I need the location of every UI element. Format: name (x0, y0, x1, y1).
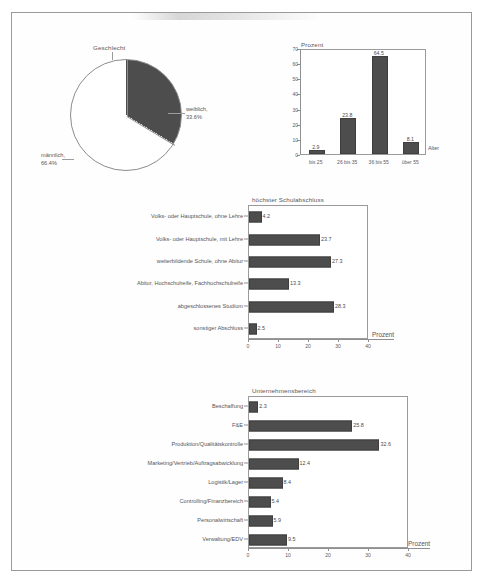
x-tick (248, 339, 249, 342)
x-tick-label: 10 (275, 343, 281, 349)
x-tick (308, 339, 309, 342)
hbar-bar (249, 534, 287, 545)
age-bar (309, 150, 325, 154)
hbar-value: 12.4 (300, 460, 311, 466)
x-tick-label: 40 (365, 343, 371, 349)
row-label: weiterbildende Schule, ohne Abitur (157, 258, 243, 264)
row-tick (244, 462, 248, 463)
gender-chart-title: Geschlecht (93, 44, 125, 51)
x-axis-line (248, 339, 394, 340)
x-axis-line (248, 548, 430, 549)
x-tick (328, 548, 329, 551)
hbar-bar (249, 477, 283, 488)
x-axis-label: Prozent (408, 540, 430, 547)
age-bar-value: 23.8 (342, 112, 352, 118)
age-chart-title: Prozent (301, 41, 323, 48)
x-tick (278, 339, 279, 342)
hbar-value: 9.5 (288, 536, 296, 542)
row-label: Produktion/Qualitätskontrolle (171, 441, 243, 447)
pie-slice-divider (127, 60, 128, 116)
pie-slice-divider (126, 116, 175, 146)
x-tick-label: 40 (405, 552, 411, 558)
pie-leader-line-female (168, 113, 185, 114)
age-bar (340, 118, 356, 154)
x-tick-label: 30 (365, 552, 371, 558)
age-y-tick-label: 0 (295, 152, 298, 158)
age-bar-value: 8.1 (407, 136, 414, 142)
row-label: sonstiger Abschluss (194, 325, 243, 331)
hbar-value: 13.3 (290, 280, 301, 286)
x-tick (248, 548, 249, 551)
age-bar-chart: Prozent Alter 0102030405060702.9bis 2523… (284, 41, 436, 173)
pie-label-female-value: 33.6% (186, 114, 202, 120)
row-label: Personalwirtschaft (197, 517, 243, 523)
x-axis-label: Prozent (372, 331, 394, 338)
x-tick (338, 339, 339, 342)
hbar-value: 28.3 (335, 303, 346, 309)
age-x-tick-label: 36 bis 55 (369, 159, 389, 165)
hbar-value: 8.4 (284, 479, 292, 485)
age-x-tick-label: über 55 (402, 159, 419, 165)
department-chart-title: Unternehmensbereich (252, 387, 316, 394)
row-tick (244, 519, 248, 520)
row-label: Beschaffung (212, 403, 243, 409)
hbar-bar (249, 301, 334, 312)
hbar-bar (249, 420, 352, 431)
x-tick (288, 548, 289, 551)
age-x-tick-label: 26 bis 35 (337, 159, 357, 165)
row-label: abgeschlossenes Studium (178, 303, 243, 309)
hbar-bar (249, 256, 331, 267)
row-tick (244, 481, 248, 482)
hbar-bar (249, 234, 320, 245)
row-label: Volks- oder Hauptschule, mit Lehre (156, 236, 243, 242)
row-label: Marketing/Vertrieb/Auftragsabwicklung (148, 460, 243, 466)
row-tick (244, 238, 248, 239)
hbar-value: 2.5 (258, 325, 266, 331)
x-tick-label: 10 (285, 552, 291, 558)
hbar-bar (249, 401, 258, 412)
row-tick (244, 305, 248, 306)
row-tick (244, 260, 248, 261)
document-page-frame: Geschlecht weiblich, 33.6% männlich, 66.… (11, 12, 472, 571)
age-bar (372, 56, 388, 154)
hbar-value: 23.7 (321, 236, 332, 242)
age-y-tick-label: 70 (292, 46, 298, 52)
row-label: Volks- oder Hauptschule, ohne Lehre (151, 213, 243, 219)
hbar-bar (249, 496, 271, 507)
pie-label-female-name: weiblich, (186, 106, 207, 112)
x-tick-label: 0 (247, 343, 250, 349)
hbar-value: 32.6 (380, 441, 391, 447)
pie-label-male-name: männlich, (41, 152, 65, 158)
hbar-value: 27.3 (332, 258, 343, 264)
hbar-value: 2.3 (259, 403, 267, 409)
age-y-tick-label: 30 (292, 107, 298, 113)
x-tick (368, 548, 369, 551)
education-chart-title: höchster Schulabschluss (252, 196, 324, 203)
row-tick (244, 443, 248, 444)
age-y-tick-label: 20 (292, 122, 298, 128)
scan-artifact (132, 13, 322, 20)
hbar-value: 5.9 (274, 517, 282, 523)
hbar-bar (249, 515, 273, 526)
hbar-bar (249, 323, 257, 334)
row-tick (244, 405, 248, 406)
age-y-tick-label: 40 (292, 91, 298, 97)
row-tick (244, 424, 248, 425)
x-tick-label: 0 (247, 552, 250, 558)
education-bar-chart: höchster Schulabschluss Volks- oder Haup… (130, 196, 410, 366)
row-label: Logistik/Lager (208, 479, 243, 485)
age-bar (403, 142, 419, 154)
department-bar-chart: Unternehmensbereich Beschaffung2.3F&E25.… (130, 387, 412, 567)
age-y-tick-label: 10 (292, 137, 298, 143)
pie-label-male: männlich, 66.4% (41, 151, 65, 167)
gender-pie-chart: Geschlecht weiblich, 33.6% männlich, 66.… (40, 43, 225, 183)
hbar-bar (249, 458, 299, 469)
row-tick (244, 500, 248, 501)
x-tick (408, 548, 409, 551)
hbar-bar (249, 279, 289, 290)
x-tick-label: 20 (325, 552, 331, 558)
age-y-tick-label: 50 (292, 76, 298, 82)
age-x-tick-label: bis 25 (309, 159, 322, 165)
hbar-value: 5.4 (272, 498, 280, 504)
department-plot-area (248, 396, 408, 548)
